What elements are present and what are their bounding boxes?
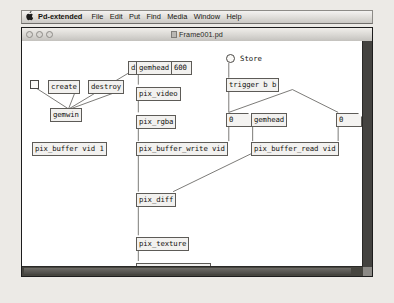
menu-item-window[interactable]: Window [191,11,224,23]
horizontal-scrollbar[interactable] [22,266,363,276]
object-gemhead-right[interactable]: gemhead [251,113,287,127]
menu-bar: Pd-extended File Edit Put Find Media Win… [21,10,373,24]
apple-logo-icon[interactable] [25,11,34,21]
patch-window: Frame001.pd [21,27,373,277]
object-pix-diff[interactable]: pix_diff [136,193,176,207]
object-pix-buffer-write[interactable]: pix_buffer_write vid [136,142,228,156]
window-titlebar[interactable]: Frame001.pd [22,28,372,42]
menu-item-help[interactable]: Help [223,11,245,23]
object-gemhead-left[interactable]: gemhead [136,61,172,75]
screen-background: Pd-extended File Edit Put Find Media Win… [0,0,394,303]
object-trigger[interactable]: trigger b b [226,78,279,92]
object-pix-buffer-read[interactable]: pix_buffer_read vid [251,142,339,156]
window-title-text: Frame001.pd [179,30,223,39]
toggle-gemwin[interactable] [30,80,39,89]
label-store: Store [240,54,262,64]
patch-canvas[interactable]: dimen 800 600 create destroy gemwin gemh… [22,41,363,267]
window-title: Frame001.pd [22,28,372,41]
menu-item-file[interactable]: File [88,11,106,23]
toggle-store[interactable] [226,54,235,63]
menu-item-put[interactable]: Put [126,11,143,23]
message-create[interactable]: create [48,80,80,94]
menu-item-edit[interactable]: Edit [107,11,126,23]
number-box-read[interactable]: 0 [336,113,362,127]
object-pix-rgba[interactable]: pix_rgba [136,115,176,129]
menu-item-find[interactable]: Find [143,11,164,23]
object-pix-texture[interactable]: pix_texture [136,237,189,251]
document-icon [171,31,177,38]
object-pix-buffer[interactable]: pix_buffer vid 1 [32,142,107,156]
object-gemwin[interactable]: gemwin [50,108,82,122]
object-pix-video[interactable]: pix_video [136,87,181,101]
message-destroy[interactable]: destroy [88,80,124,94]
vertical-scrollbar[interactable] [362,41,372,267]
menu-item-media[interactable]: Media [164,11,191,23]
menu-item-pd-extended[interactable]: Pd-extended [38,11,88,23]
resize-grip[interactable] [363,267,372,276]
horizontal-scrollbar-thumb[interactable] [24,268,351,274]
number-box-write[interactable]: 0 [226,113,252,127]
